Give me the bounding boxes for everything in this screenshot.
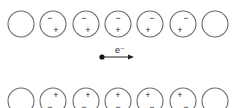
negative-charge: − [81,13,86,23]
velocity-arrowhead-icon [128,55,134,60]
positive-charge: + [145,25,150,35]
polarization-diagram: −+−+−+−+−+ e⁻ −+−+−+−+−+ [0,0,240,108]
atom-circle [8,88,34,108]
bottom-atom-row: −+−+−+−+−+ [8,88,228,108]
negative-charge: − [149,13,154,23]
bottom-row-atom: −+ [170,88,196,108]
bottom-row-atom [202,88,228,108]
moving-electron: e⁻ [99,45,134,60]
bottom-row-atom [8,88,34,108]
atom-circle [8,11,34,37]
negative-charge: − [47,13,52,23]
negative-charge: − [47,102,52,108]
bottom-row-atom: −+ [40,88,66,108]
positive-charge: + [85,25,90,35]
negative-charge: − [115,13,120,23]
positive-charge: + [177,90,182,100]
positive-charge: + [115,90,120,100]
top-atom-row: −+−+−+−+−+ [8,11,228,37]
bottom-row-atom: −+ [105,88,131,108]
positive-charge: + [177,25,182,35]
top-row-atom: −+ [73,11,99,37]
top-row-atom [202,11,228,37]
bottom-row-atom: −+ [137,88,163,108]
atom-circle [202,11,228,37]
positive-charge: + [145,90,150,100]
positive-charge: + [85,90,90,100]
positive-charge: + [53,25,58,35]
positive-charge: + [53,90,58,100]
top-row-atom: −+ [137,11,163,37]
bottom-row-atom: −+ [73,88,99,108]
electron-label: e⁻ [115,45,125,55]
top-row-atom [8,11,34,37]
positive-charge: + [115,25,120,35]
top-row-atom: −+ [170,11,196,37]
top-row-atom: −+ [105,11,131,37]
top-row-atom: −+ [40,11,66,37]
atom-circle [202,88,228,108]
negative-charge: − [149,102,154,108]
negative-charge: − [183,13,188,23]
negative-charge: − [81,102,86,108]
negative-charge: − [115,102,120,108]
negative-charge: − [183,102,188,108]
